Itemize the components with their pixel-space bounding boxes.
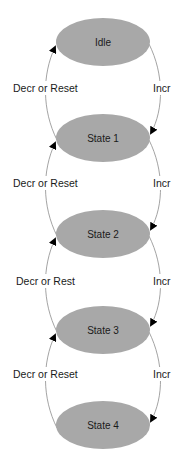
state-label: State 1 [87, 133, 119, 144]
state-3: State 3 [56, 306, 150, 354]
state-1: State 1 [56, 114, 150, 162]
state-label: State 3 [87, 325, 119, 336]
edge-label-decr: Decr or Reset [13, 368, 78, 380]
edge-label-incr: Incr [153, 177, 171, 189]
state-diagram: Idle State 1 State 2 State 3 State 4 Dec… [0, 0, 184, 471]
edge-label-incr: Incr [153, 275, 171, 287]
edge-label-incr: Incr [153, 368, 171, 380]
edge-label-decr: Decr or Rest [16, 275, 75, 287]
state-idle: Idle [56, 18, 150, 66]
edge-state4-to-state3 [45, 335, 57, 428]
edge-label-decr: Decr or Reset [13, 82, 78, 94]
state-2: State 2 [56, 210, 150, 258]
state-label: State 4 [87, 420, 119, 431]
state-label: State 2 [87, 229, 119, 240]
state-4: State 4 [56, 401, 150, 449]
edge-label-decr: Decr or Reset [13, 177, 78, 189]
state-label: Idle [95, 37, 112, 48]
edge-label-incr: Incr [153, 82, 171, 94]
